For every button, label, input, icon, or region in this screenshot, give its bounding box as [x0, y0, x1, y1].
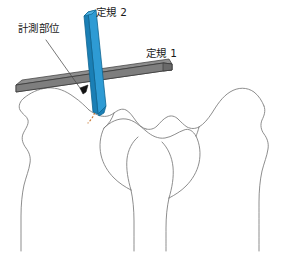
- ruler-1-right-tip: [163, 63, 172, 71]
- bone-eminence-right: [178, 119, 199, 129]
- bone-inner-plateau-right: [169, 136, 200, 198]
- bone-shaft-left: [131, 190, 134, 251]
- label-measurement-site: 計測部位: [18, 23, 59, 35]
- bone-contour-left: [19, 98, 30, 251]
- bone-contour-left-upper: [24, 88, 89, 110]
- bone-inner-crest-left: [127, 137, 138, 190]
- bone-contour-right-upper: [199, 88, 264, 127]
- bone-outline-group: [19, 88, 268, 251]
- label-ruler-1: 定規 1: [146, 48, 177, 60]
- measurement-site-arrow: [80, 85, 88, 94]
- bone-eminence-peak: [146, 116, 178, 129]
- figure-canvas: [0, 0, 287, 253]
- anatomical-measurement-figure: 計測部位 定規 2 定規 1: [0, 0, 287, 253]
- label-ruler-2: 定規 2: [96, 7, 127, 19]
- bone-inner-plateau-left: [100, 128, 131, 190]
- bone-shaft-right: [166, 198, 169, 251]
- bone-contour-right: [259, 106, 268, 251]
- ruler-2-blue-straightedge: [84, 10, 106, 116]
- bone-inner-crest-right: [162, 142, 173, 198]
- bone-inner-plateau-top: [104, 119, 196, 138]
